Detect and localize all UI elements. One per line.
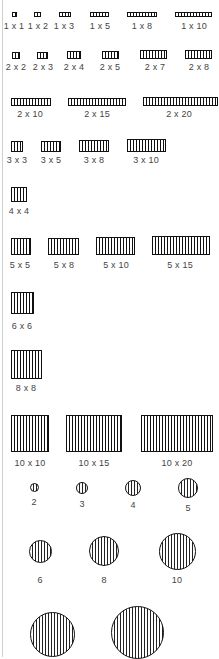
rect-block-icon [11, 292, 34, 314]
rect-size-label: 2 x 4 [64, 62, 85, 72]
rect-size-label: 8 x 8 [16, 383, 37, 393]
circle-block-icon [89, 536, 119, 566]
rect-block-icon [12, 12, 17, 17]
rect-size-label: 1 x 2 [28, 21, 49, 31]
rect-size-label: 10 x 20 [162, 458, 193, 468]
circle-block-icon [111, 606, 164, 659]
rect-size-label: 5 x 5 [10, 260, 31, 270]
circle-size-label: 4 [130, 500, 135, 510]
rect-size-label: 1 x 5 [90, 21, 111, 31]
rect-size-label: 3 x 5 [41, 155, 62, 165]
circle-block-icon [30, 483, 39, 492]
rect-size-label: 5 x 8 [54, 260, 75, 270]
rect-block-icon [96, 237, 135, 255]
rect-block-icon [11, 238, 31, 255]
rect-block-icon [48, 238, 79, 255]
rect-block-icon [12, 52, 20, 59]
rect-size-label: 4 x 4 [9, 206, 30, 216]
circle-size-label: 10 [172, 575, 182, 585]
circle-size-label: 3 [79, 499, 84, 509]
rect-size-label: 2 x 7 [145, 62, 166, 72]
circle-block-icon [125, 480, 141, 496]
rect-block-icon [59, 12, 71, 17]
rect-block-icon [79, 140, 109, 152]
rect-block-icon [11, 98, 51, 106]
circle-block-icon [30, 612, 75, 657]
rect-size-label: 2 x 10 [17, 109, 43, 119]
rect-block-icon [11, 187, 27, 202]
rect-size-label: 2 x 2 [6, 62, 27, 72]
circle-size-label: 8 [101, 575, 106, 585]
rect-block-icon [37, 52, 48, 59]
rect-block-icon [34, 12, 41, 17]
rect-block-icon [11, 415, 49, 452]
rect-size-label: 1 x 8 [132, 21, 153, 31]
rect-block-icon [152, 236, 210, 255]
rect-block-icon [141, 415, 213, 452]
rect-size-label: 5 x 10 [103, 260, 129, 270]
circle-size-label: 6 [37, 575, 42, 585]
circle-block-icon [159, 533, 196, 570]
rect-size-label: 10 x 10 [15, 458, 46, 468]
circle-block-icon [29, 540, 52, 563]
rect-size-label: 5 x 15 [167, 260, 193, 270]
rect-block-icon [90, 12, 109, 17]
rect-block-icon [11, 350, 42, 379]
rect-size-label: 1 x 3 [54, 21, 75, 31]
rect-block-icon [143, 97, 218, 106]
rect-size-label: 1 x 10 [181, 21, 207, 31]
rect-block-icon [127, 12, 157, 17]
rect-size-label: 2 x 3 [33, 62, 54, 72]
rect-block-icon [41, 141, 61, 152]
rect-block-icon [185, 50, 212, 59]
rect-size-label: 3 x 10 [133, 155, 159, 165]
rect-size-label: 6 x 6 [12, 321, 33, 331]
rect-block-icon [175, 12, 212, 17]
circle-block-icon [76, 482, 88, 494]
circle-size-label: 5 [185, 503, 190, 513]
rect-size-label: 2 x 8 [189, 62, 210, 72]
rect-block-icon [68, 98, 126, 106]
rect-size-label: 3 x 3 [7, 155, 28, 165]
rect-size-label: 1 x 1 [4, 21, 25, 31]
rect-size-label: 2 x 15 [84, 109, 110, 119]
rect-size-label: 2 x 20 [166, 109, 192, 119]
rect-block-icon [66, 415, 122, 452]
circle-size-label: 2 [31, 497, 36, 507]
circle-block-icon [178, 478, 198, 498]
rect-block-icon [11, 141, 23, 152]
rect-block-icon [102, 51, 119, 59]
rect-size-label: 10 x 15 [79, 458, 110, 468]
rect-size-label: 3 x 8 [84, 155, 105, 165]
rect-block-icon [127, 139, 166, 152]
rect-size-label: 2 x 5 [100, 62, 121, 72]
rect-block-icon [67, 51, 81, 59]
rect-block-icon [140, 50, 167, 59]
page-left-border [2, 0, 3, 657]
